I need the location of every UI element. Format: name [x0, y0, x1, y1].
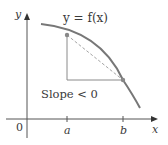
- tick-label-b: b: [120, 124, 127, 137]
- x-axis: [6, 116, 158, 122]
- curve-label: y = f(x): [62, 11, 108, 25]
- slope-diagram: y = f(x) Slope < 0 y x 0 a b: [0, 0, 168, 145]
- secant-line: [67, 35, 123, 80]
- x-axis-label: x: [152, 123, 159, 136]
- x-axis-arrow-icon: [151, 116, 158, 122]
- y-axis-arrow-icon: [24, 13, 30, 20]
- slope-label: Slope < 0: [41, 87, 98, 101]
- y-axis-label: y: [14, 8, 22, 21]
- point-a: [65, 33, 69, 37]
- point-b: [121, 78, 125, 82]
- tick-label-a: a: [64, 124, 71, 137]
- origin-label: 0: [16, 121, 23, 134]
